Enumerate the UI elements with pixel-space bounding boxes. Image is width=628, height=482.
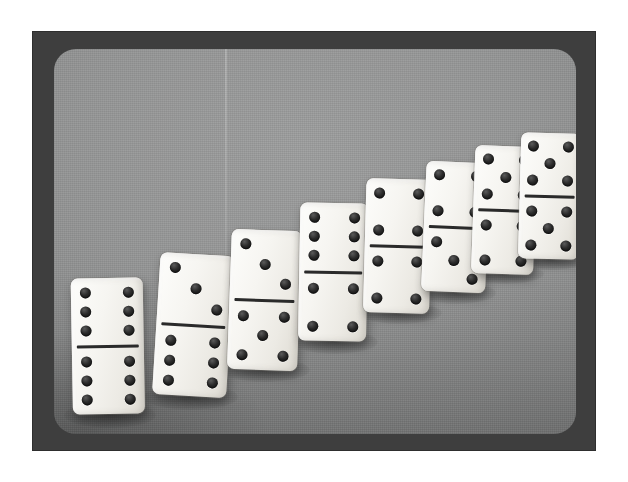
pip — [560, 240, 571, 251]
pip — [162, 374, 174, 386]
pip — [80, 306, 91, 317]
pip — [210, 304, 222, 316]
pip-layout-5 — [520, 132, 576, 195]
pip — [561, 206, 572, 217]
domino-half — [365, 178, 433, 245]
pip-layout-4 — [298, 273, 367, 342]
domino-half — [520, 132, 576, 195]
pip — [432, 205, 443, 216]
pip — [373, 224, 384, 235]
domino-tile[interactable] — [71, 277, 145, 414]
pip — [562, 176, 573, 187]
pip — [563, 141, 574, 152]
pip — [308, 250, 319, 261]
pip — [525, 239, 536, 250]
pip — [374, 187, 385, 198]
pip — [413, 188, 424, 199]
domino-half — [518, 197, 576, 260]
photograph-scene — [54, 49, 576, 434]
domino-half — [156, 252, 234, 326]
pip — [348, 251, 359, 262]
pip — [308, 231, 319, 242]
pip — [80, 287, 91, 298]
pip — [190, 283, 202, 295]
domino-half — [230, 229, 302, 300]
pip — [347, 321, 358, 332]
photo-frame-border — [32, 31, 596, 451]
pip — [526, 205, 537, 216]
domino-half — [152, 324, 230, 398]
domino-tile[interactable] — [152, 252, 235, 398]
pip — [348, 232, 359, 243]
pip — [545, 158, 556, 169]
pip-layout-6 — [72, 347, 145, 415]
pip — [279, 311, 290, 322]
domino-half — [72, 347, 145, 415]
photo-card — [0, 0, 628, 482]
pip — [412, 225, 423, 236]
pip — [123, 305, 134, 316]
domino-tile[interactable] — [298, 202, 368, 341]
pip — [81, 325, 92, 336]
domino-tile[interactable] — [227, 229, 302, 371]
pip — [82, 394, 93, 405]
pip — [410, 294, 421, 305]
domino-half — [299, 202, 368, 271]
pip — [257, 330, 268, 341]
pip — [240, 238, 251, 249]
pip — [123, 324, 134, 335]
domino-half — [71, 277, 144, 345]
pip-layout-5 — [518, 197, 576, 260]
pip — [236, 349, 247, 360]
pip — [543, 223, 554, 234]
pip — [124, 394, 135, 405]
pip — [411, 257, 422, 268]
pip — [124, 356, 135, 367]
pip — [123, 286, 134, 297]
pip — [163, 354, 175, 366]
pip — [81, 376, 92, 387]
pip — [169, 262, 181, 274]
pip — [238, 310, 249, 321]
pip — [500, 172, 511, 183]
pip — [206, 377, 218, 389]
domino-tile[interactable] — [518, 132, 576, 260]
pip — [482, 154, 493, 165]
pip — [527, 175, 538, 186]
pip — [208, 337, 220, 349]
pip-layout-5 — [227, 300, 299, 371]
pip-layout-6 — [299, 202, 368, 271]
pip — [479, 254, 490, 265]
domino-half — [298, 273, 367, 342]
pip — [481, 188, 492, 199]
pip-layout-6 — [71, 277, 144, 345]
pip — [277, 350, 288, 361]
pip — [371, 293, 382, 304]
pip — [307, 282, 318, 293]
pip — [372, 256, 383, 267]
pip — [81, 357, 92, 368]
pip — [449, 255, 460, 266]
pip-layout-4 — [365, 178, 433, 245]
pip-layout-3 — [156, 252, 234, 326]
pip — [528, 141, 539, 152]
pip — [347, 283, 358, 294]
pip — [480, 219, 491, 230]
pip-layout-3 — [230, 229, 302, 300]
pip — [307, 320, 318, 331]
pip — [165, 334, 177, 346]
pip — [207, 357, 219, 369]
pip — [309, 212, 320, 223]
pip — [124, 375, 135, 386]
pip — [280, 279, 291, 290]
pip — [349, 212, 360, 223]
pip — [467, 273, 478, 284]
pip-layout-6 — [152, 324, 230, 398]
pip — [434, 169, 445, 180]
pip — [431, 236, 442, 247]
domino-half — [227, 300, 299, 371]
pip — [260, 259, 271, 270]
